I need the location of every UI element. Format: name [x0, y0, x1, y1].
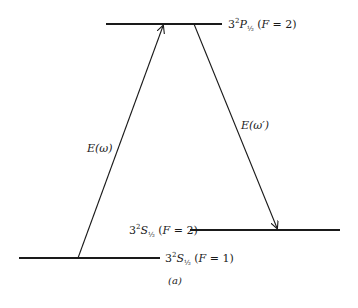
- stokes-field-label: E(ω′): [240, 119, 269, 132]
- upper-level-label: 32P½ (F = 2): [228, 17, 297, 33]
- figure-caption: (a): [168, 275, 182, 286]
- lower-level-label: 32S½ (F = 1): [165, 251, 234, 267]
- pump-field-label: E(ω): [86, 142, 113, 155]
- energy-level-diagram: 32P½ (F = 2) 32S½ (F = 2) 32S½ (F = 1) E…: [0, 0, 358, 308]
- middle-level-label: 32S½ (F = 2): [129, 223, 198, 239]
